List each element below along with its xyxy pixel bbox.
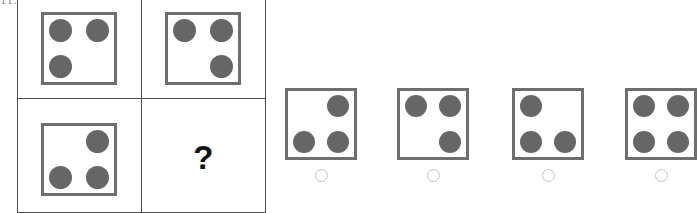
radio-button-option-4[interactable] [655,169,668,182]
matrix-cell-r0c1 [142,0,266,99]
dot-top-left [405,95,427,117]
dice-figure-r0c0 [41,12,117,85]
dot-bottom-left [293,131,315,153]
dot-bottom-left [49,55,72,78]
dice-figure-r1c0 [41,123,117,196]
dot-top-left [173,19,196,42]
dot-top-left [49,19,72,42]
dot-bottom-left [520,131,542,153]
answer-option-3[interactable] [510,88,586,182]
dice-figure-option-4 [625,88,697,160]
dot-top-right [439,95,461,117]
dot-top-right [327,95,349,117]
dice-figure-r0c1 [165,12,241,85]
dot-bottom-right [210,55,233,78]
dice-figure-option-2 [397,88,469,160]
dot-bottom-right [667,131,689,153]
radio-button-option-1[interactable] [315,169,328,182]
answer-option-1[interactable] [283,88,359,182]
matrix-cell-r1c1-missing: ? [142,99,266,212]
dot-top-left [633,95,655,117]
dot-bottom-right [86,166,109,189]
dot-bottom-right [327,131,349,153]
matrix-cell-r0c0 [18,0,142,99]
dot-top-right [86,19,109,42]
dot-top-right [210,19,233,42]
radio-button-option-2[interactable] [427,169,440,182]
dot-bottom-left [49,166,72,189]
question-mark: ? [193,141,213,174]
dice-figure-option-3 [512,88,584,160]
matrix-cell-r1c0 [18,99,142,212]
dot-top-right [667,95,689,117]
matrix-grid: ? [17,0,266,213]
dot-bottom-right [554,131,576,153]
dice-figure-option-1 [285,88,357,160]
answer-option-4[interactable] [623,88,698,182]
answer-option-2[interactable] [395,88,471,182]
problem-number: 11. [0,0,17,6]
answer-options [283,88,698,198]
dot-bottom-right [439,131,461,153]
dot-top-left [520,95,542,117]
dot-top-right [86,130,109,153]
dot-bottom-left [633,131,655,153]
radio-button-option-3[interactable] [542,169,555,182]
